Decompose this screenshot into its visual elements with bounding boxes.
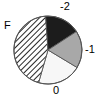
slice-label-neg-one: -1 bbox=[85, 44, 95, 55]
slice-label-neg-two: -2 bbox=[60, 1, 70, 12]
pie-chart-figure: F -2 -1 0 bbox=[0, 0, 96, 100]
pie-chart-canvas bbox=[0, 0, 96, 100]
slice-label-f: F bbox=[4, 20, 11, 31]
slice-label-zero: 0 bbox=[53, 85, 59, 96]
